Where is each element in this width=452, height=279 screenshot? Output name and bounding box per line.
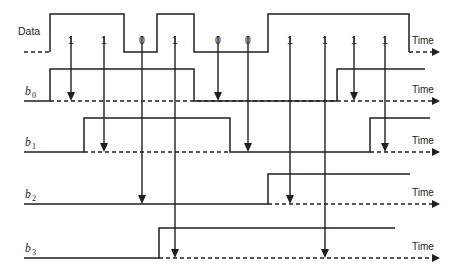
b3-time-arrowhead [432, 254, 440, 262]
bit-label-group: 1 1 0 1 0 0 1 1 1 1 [68, 34, 388, 46]
b0-row-label: b [25, 85, 31, 97]
row-b0: b 0 Time [24, 69, 440, 105]
b2-time-arrowhead [432, 200, 440, 208]
b2-row-label-subscript: 2 [32, 194, 36, 203]
drop-arrow-1 [100, 36, 108, 152]
row-data: Data Time [18, 14, 440, 56]
b1-row-label-subscript: 1 [32, 142, 36, 151]
b0-time-label: Time [412, 84, 434, 95]
b2-row-label: b [25, 188, 31, 200]
drop-arrow-2-head [138, 195, 146, 204]
row-b1: b 1 Time [24, 118, 440, 156]
drop-arrow-2 [138, 36, 146, 204]
drop-arrow-1-head [100, 143, 108, 152]
drop-arrow-5 [244, 36, 252, 152]
timing-diagram-canvas: Data Time 1 1 0 1 0 0 1 1 1 1 b 0 Time [0, 0, 452, 279]
b1-waveform [24, 118, 430, 152]
drop-arrow-7 [321, 36, 329, 258]
data-time-label: Time [412, 35, 434, 46]
b3-waveform [24, 228, 395, 258]
drop-arrow-6-head [286, 195, 294, 204]
b3-row-label-subscript: 3 [32, 248, 36, 257]
drop-arrow-8-head [350, 92, 358, 101]
data-row-label: Data [18, 25, 40, 37]
b1-row-label: b [25, 136, 31, 148]
b2-time-label: Time [412, 187, 434, 198]
drop-arrow-5-head [244, 143, 252, 152]
row-b2: b 2 Time [24, 174, 440, 208]
drop-arrow-7-head [321, 249, 329, 258]
b0-row-label-subscript: 0 [32, 91, 36, 100]
row-b3: b 3 Time [24, 228, 440, 262]
b3-time-label: Time [412, 241, 434, 252]
drop-arrow-9-head [381, 143, 389, 152]
drop-arrow-3-head [171, 249, 179, 258]
timing-diagram-figure: Data Time 1 1 0 1 0 0 1 1 1 1 b 0 Time [0, 0, 452, 279]
drop-arrow-0-head [67, 92, 75, 101]
b1-time-arrowhead [432, 148, 440, 156]
b2-waveform [24, 174, 410, 204]
data-time-arrowhead [432, 48, 440, 56]
drop-arrow-6 [286, 36, 294, 204]
b0-time-arrowhead [432, 97, 440, 105]
b0-waveform [24, 69, 425, 101]
b1-time-label: Time [412, 135, 434, 146]
b3-row-label: b [25, 242, 31, 254]
drop-arrow-9 [381, 36, 389, 152]
drop-arrow-4-head [214, 92, 222, 101]
